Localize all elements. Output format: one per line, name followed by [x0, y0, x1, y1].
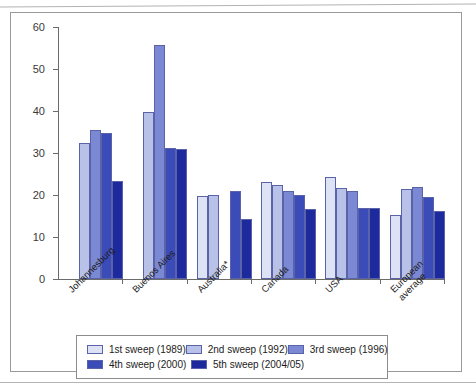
bar: [358, 208, 369, 279]
bar-group: [197, 27, 252, 279]
y-tick-label: 40: [33, 105, 45, 117]
bar-group: [325, 27, 380, 279]
legend-item: 3rd sweep (1996): [288, 344, 388, 355]
bar: [434, 211, 445, 279]
x-tick: [444, 279, 445, 284]
page-rule-top: [0, 4, 476, 8]
legend-swatch: [186, 345, 202, 354]
bar-group: [132, 27, 187, 279]
bar: [241, 219, 252, 279]
bar: [336, 188, 347, 279]
bar: [197, 196, 208, 279]
bar: [176, 149, 187, 279]
chart-legend: 1st sweep (1989)2nd sweep (1992)3rd swee…: [76, 335, 388, 379]
bar: [261, 182, 272, 279]
chart-frame: 0102030405060 JohannesburgBuenos AiresAu…: [10, 12, 462, 372]
x-tick: [122, 279, 123, 284]
bar: [294, 195, 305, 279]
x-tick: [251, 279, 252, 284]
bar-group: [390, 27, 445, 279]
y-tick-label: 30: [33, 147, 45, 159]
bar: [112, 181, 123, 279]
y-tick: 30: [53, 153, 58, 154]
legend-item: 5th sweep (2004/05): [191, 359, 295, 370]
plot-area: 0102030405060: [58, 27, 444, 279]
x-tick: [187, 279, 188, 284]
legend-item: 2nd sweep (1992): [186, 344, 288, 355]
y-tick: 0: [53, 279, 58, 280]
legend-row: 4th sweep (2000)5th sweep (2004/05): [87, 357, 379, 372]
y-tick: 20: [53, 195, 58, 196]
y-tick-label: 60: [33, 21, 45, 33]
y-tick-label: 50: [33, 63, 45, 75]
x-tick: [380, 279, 381, 284]
legend-swatch: [87, 345, 103, 354]
bar: [347, 191, 358, 279]
y-axis-line: [58, 27, 59, 279]
y-tick-label: 20: [33, 189, 45, 201]
legend-swatch: [87, 360, 103, 369]
legend-row: 1st sweep (1989)2nd sweep (1992)3rd swee…: [87, 342, 379, 357]
legend-item: 1st sweep (1989): [87, 344, 186, 355]
legend-label: 5th sweep (2004/05): [213, 359, 304, 370]
legend-item: 4th sweep (2000): [87, 359, 191, 370]
bar-group: [68, 27, 123, 279]
y-tick: 10: [53, 237, 58, 238]
y-tick: 50: [53, 69, 58, 70]
bar: [154, 45, 165, 279]
y-tick: 40: [53, 111, 58, 112]
page-rule-bottom: [0, 382, 476, 383]
bar: [369, 208, 380, 279]
legend-swatch: [288, 345, 304, 354]
legend-label: 2nd sweep (1992): [208, 344, 288, 355]
legend-swatch: [191, 360, 207, 369]
bar: [143, 112, 154, 279]
y-tick-label: 0: [39, 273, 45, 285]
legend-label: 4th sweep (2000): [109, 359, 186, 370]
y-tick-label: 10: [33, 231, 45, 243]
legend-label: 1st sweep (1989): [109, 344, 186, 355]
x-tick: [315, 279, 316, 284]
legend-label: 3rd sweep (1996): [310, 344, 388, 355]
bar-group: [261, 27, 316, 279]
bar: [325, 177, 336, 279]
bar: [305, 209, 316, 279]
bar: [390, 215, 401, 279]
y-tick: 60: [53, 27, 58, 28]
bar: [79, 143, 90, 279]
